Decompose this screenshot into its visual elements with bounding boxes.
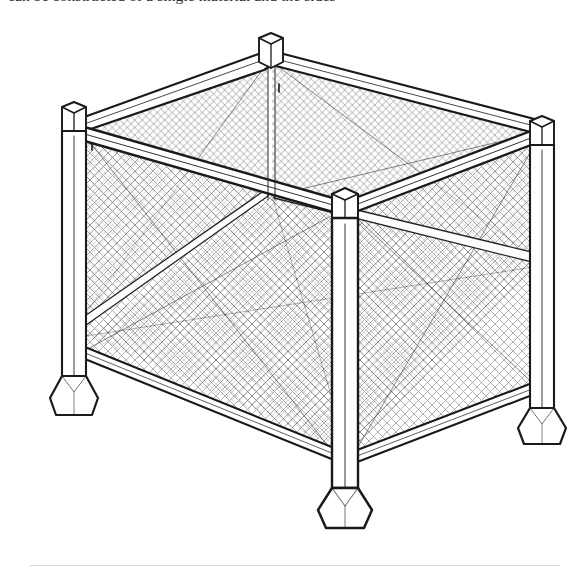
foot-front	[318, 488, 372, 528]
corner-post-left	[62, 102, 86, 376]
corner-post-right	[530, 116, 554, 408]
corner-post-front	[332, 188, 358, 488]
footer-divider	[30, 565, 560, 566]
page-canvas: can be constructed of a single material …	[0, 0, 581, 576]
foot-right	[518, 408, 566, 444]
stillage-container-figure	[0, 0, 581, 576]
foot-left	[50, 376, 98, 415]
